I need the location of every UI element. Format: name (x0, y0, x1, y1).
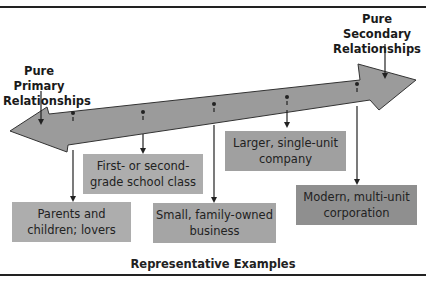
marker-dot (355, 82, 359, 86)
example-line: Small, family-owned (156, 207, 273, 223)
example-line: First- or second- (90, 158, 196, 174)
example-box-parents: Parents andchildren; lovers (12, 202, 131, 242)
caption-representative-examples: Representative Examples (0, 257, 426, 271)
example-line: corporation (303, 205, 409, 221)
example-line: Parents and (27, 206, 116, 222)
example-line: grade school class (90, 174, 196, 190)
marker-dot (71, 111, 75, 115)
example-line: Larger, single-unit (233, 135, 338, 151)
marker-dot (141, 110, 145, 114)
example-box-multi-unit-corporation: Modern, multi-unitcorporation (296, 185, 417, 225)
marker-dot (212, 102, 216, 106)
example-box-single-unit-company: Larger, single-unitcompany (225, 131, 346, 171)
example-line: business (156, 223, 273, 239)
example-box-school-class: First- or second-grade school class (83, 154, 203, 194)
marker-dot (285, 95, 289, 99)
example-box-family-business: Small, family-ownedbusiness (153, 203, 276, 243)
example-line: Modern, multi-unit (303, 189, 409, 205)
example-line: children; lovers (27, 222, 116, 238)
example-line: company (233, 151, 338, 167)
continuum-arrow (10, 64, 416, 152)
